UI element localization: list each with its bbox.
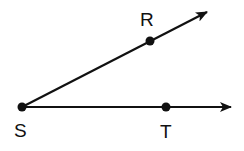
point-r <box>146 37 155 46</box>
point-s <box>18 103 27 112</box>
label-t: T <box>160 121 172 142</box>
point-t <box>162 103 171 112</box>
angle-diagram: R S T <box>0 0 244 151</box>
ray-sr <box>22 12 207 107</box>
label-r: R <box>140 9 154 30</box>
label-s: S <box>14 120 27 141</box>
